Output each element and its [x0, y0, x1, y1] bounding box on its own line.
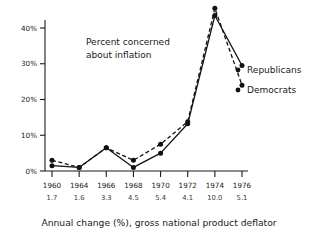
x-tick-label-secondary: 10.0	[207, 194, 222, 202]
x-axis-tick-labels: 19601964196619681970197219741976	[43, 181, 252, 190]
data-point	[240, 83, 245, 88]
series-lines	[52, 8, 242, 167]
data-point	[77, 165, 82, 170]
data-point	[50, 163, 55, 168]
chart-annotation-line1: Percent concerned	[86, 37, 170, 47]
x-tick-label-secondary: 1.6	[74, 194, 85, 202]
data-point	[131, 158, 136, 163]
series-line-democrats	[52, 8, 242, 167]
x-tick-label-secondary: 1.7	[47, 194, 58, 202]
x-tick-label-secondary: 4.1	[182, 194, 193, 202]
x-tick-label: 1968	[124, 181, 143, 190]
x-tick-label: 1972	[179, 181, 197, 190]
x-tick-label: 1960	[43, 181, 62, 190]
y-tick-label: 30%	[21, 59, 37, 68]
y-tick-label: 40%	[21, 24, 37, 33]
x-tick-label-secondary: 3.3	[101, 194, 112, 202]
x-tick-label: 1964	[70, 181, 89, 190]
data-point	[50, 158, 55, 163]
y-tick-label: 20%	[21, 95, 37, 104]
x-tick-label: 1966	[97, 181, 116, 190]
data-point	[158, 151, 163, 156]
series-label-democrats: Democrats	[247, 85, 296, 95]
data-point	[158, 142, 163, 147]
data-point	[104, 145, 109, 150]
x-tick-label: 1976	[233, 181, 252, 190]
y-axis-ticks	[40, 28, 45, 171]
x-tick-label-secondary: 4.5	[128, 194, 139, 202]
data-point	[240, 63, 245, 68]
line-chart-svg: 0%10%20%30%40% 1960196419661968197019721…	[0, 0, 319, 233]
series-data-points	[50, 6, 245, 170]
legend-marker-republicans	[236, 68, 241, 73]
data-point	[212, 6, 217, 11]
y-tick-label: 0%	[26, 167, 38, 176]
x-tick-label-secondary: 5.1	[237, 194, 248, 202]
chart-container: 0%10%20%30%40% 1960196419661968197019721…	[0, 0, 319, 233]
x-tick-label: 1970	[151, 181, 170, 190]
y-axis-tick-labels: 0%10%20%30%40%	[21, 24, 37, 176]
legend-marker-democrats	[236, 88, 241, 93]
series-label-republicans: Republicans	[247, 65, 302, 75]
chart-annotation-line2: about inflation	[86, 50, 151, 60]
data-point	[185, 121, 190, 126]
data-point	[131, 165, 136, 170]
y-tick-label: 10%	[21, 131, 37, 140]
x-tick-label: 1974	[206, 181, 225, 190]
x-axis-caption: Annual change (%), gross national produc…	[41, 217, 276, 228]
x-tick-label-secondary: 5.4	[155, 194, 166, 202]
x-axis-ticks	[52, 171, 242, 177]
x-axis-secondary-tick-labels: 1.71.63.34.55.44.110.05.1	[47, 194, 248, 202]
data-point	[212, 13, 217, 18]
